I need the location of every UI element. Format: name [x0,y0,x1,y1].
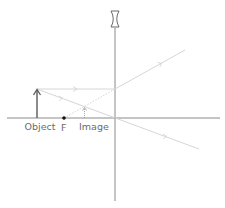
object-label: Object [25,121,56,132]
image-label: Image [79,121,109,132]
diverging-lens-icon [111,11,119,27]
ray-arrow [59,96,63,101]
ray-diagram: Object F Image [0,0,225,208]
focal-point [62,116,66,120]
ray-parallel-refracted [115,50,185,89]
ray-central [37,89,199,149]
focal-point-label: F [61,122,66,133]
ray-virtual-extension [64,89,115,118]
